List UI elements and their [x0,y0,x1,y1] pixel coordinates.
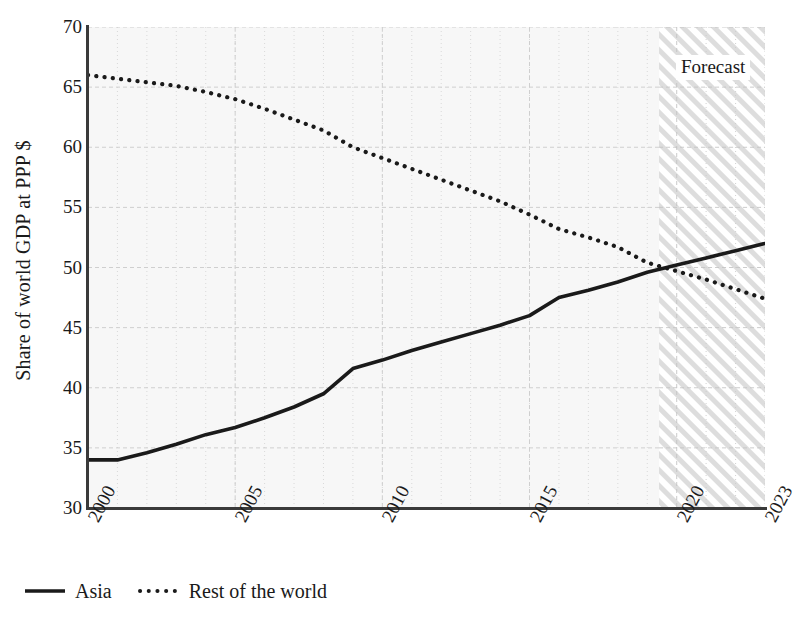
y-axis-tick-label: 70 [42,17,82,36]
legend-item-asia: Asia [24,581,112,601]
y-axis-tick-labels: 706560555045403530 [36,0,82,621]
y-axis-tick-label: 50 [42,258,82,277]
y-axis-tick-label: 60 [42,137,82,156]
x-axis-line [86,507,767,510]
y-axis-title: Share of world GDP at PPP $ [12,140,35,381]
chart-legend: Asia Rest of the world [24,578,353,604]
y-axis-tick-label: 55 [42,197,82,216]
x-axis-tick-label: 2023 [761,482,796,524]
y-axis-tick-label: 35 [42,438,82,457]
legend-item-rest-of-the-world: Rest of the world [138,581,327,601]
plot-svg [88,27,765,508]
y-axis-tick-label: 30 [42,498,82,517]
y-axis-line [86,25,89,510]
y-axis-tick-label: 40 [42,378,82,397]
legend-label-asia: Asia [75,581,112,601]
y-axis-tick-label: 65 [42,77,82,96]
dotted-line-key-icon [138,584,180,598]
forecast-label: Forecast [676,55,750,80]
legend-label-rest-of-the-world: Rest of the world [189,581,327,601]
y-axis-tick-label: 45 [42,318,82,337]
plot-area [88,27,765,508]
solid-line-key-icon [24,584,66,598]
